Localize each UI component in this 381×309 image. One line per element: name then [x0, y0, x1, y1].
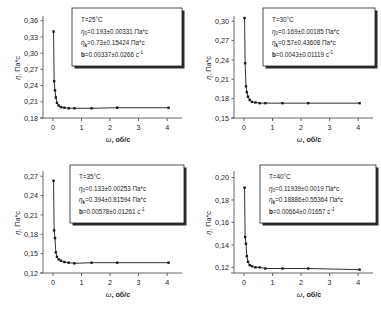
data-point [251, 265, 253, 267]
y-tick-label: 0,21 [24, 97, 38, 106]
chart-svg-top-left: 0,180,210,240,270,300,330,3601234η, Па*с… [0, 0, 190, 155]
x-tick-label: 0 [242, 123, 246, 132]
annotation-temperature: T=30°C [272, 16, 294, 23]
y-tick-label: 0,14 [215, 241, 229, 250]
x-axis-title: ω, об/с [106, 290, 130, 299]
data-point [73, 262, 75, 264]
y-tick-label: 0,33 [24, 33, 38, 42]
data-point [281, 102, 283, 104]
data-point [245, 243, 247, 245]
y-tick-label: 0,27 [24, 65, 38, 74]
data-point [90, 107, 92, 109]
y-tick-label: 0,16 [215, 218, 229, 227]
data-point [58, 258, 60, 260]
data-point [63, 107, 65, 109]
x-tick-label: 2 [108, 278, 112, 287]
chart-svg-bottom-left: 0,120,150,180,210,240,2701234η, Па*сω, о… [0, 155, 190, 309]
x-tick-label: 2 [108, 123, 112, 132]
data-point [249, 264, 251, 266]
data-point [53, 229, 55, 231]
y-tick-label: 0,21 [24, 211, 38, 220]
x-tick-label: 1 [271, 123, 275, 132]
data-point [244, 236, 246, 238]
y-tick-label: 0,12 [24, 269, 38, 278]
data-point [90, 261, 92, 263]
x-tick-label: 0 [51, 278, 55, 287]
y-tick-label: 0,30 [215, 17, 229, 26]
x-tick-label: 3 [328, 123, 332, 132]
data-point [55, 251, 57, 253]
chart-svg-bottom-right: 0,120,140,160,180,2001234η, Па*сω, об/сT… [190, 155, 381, 309]
data-point [254, 101, 256, 103]
y-axis-title: η, Па*с [204, 211, 213, 235]
data-point [56, 102, 58, 104]
data-point [247, 96, 249, 98]
data-point [358, 268, 360, 270]
data-point [53, 80, 55, 82]
data-point [52, 180, 54, 182]
y-tick-label: 0,18 [24, 114, 38, 123]
y-axis-title: η, Па*с [13, 56, 22, 80]
x-tick-label: 2 [299, 123, 303, 132]
data-point [258, 102, 260, 104]
data-point [67, 107, 69, 109]
x-tick-label: 3 [328, 278, 332, 287]
data-point [167, 261, 169, 263]
data-point [60, 106, 62, 108]
data-point [264, 267, 266, 269]
x-axis-title: ω, об/с [106, 135, 130, 144]
data-point [55, 96, 57, 98]
x-tick-label: 4 [356, 278, 360, 287]
annotation-b: b=0.00664±0.01657 с-1 [269, 207, 335, 215]
y-tick-label: 0,15 [215, 114, 229, 123]
y-tick-label: 0,24 [215, 56, 229, 65]
x-tick-label: 0 [242, 278, 246, 287]
x-tick-label: 3 [137, 278, 141, 287]
y-axis-title: η, Па*с [13, 211, 22, 235]
annotation-b: b=0.0043±0.01119 с-1 [272, 50, 334, 58]
data-point [54, 89, 56, 91]
chart-panel-bottom-right: 0,120,140,160,180,2001234η, Па*сω, об/сT… [190, 155, 381, 309]
data-point [245, 85, 247, 87]
data-point [246, 91, 248, 93]
y-tick-label: 0,24 [24, 191, 38, 200]
data-point [244, 62, 246, 64]
x-tick-label: 2 [299, 278, 303, 287]
y-tick-label: 0,18 [215, 196, 229, 205]
y-tick-label: 0,21 [215, 75, 229, 84]
y-tick-label: 0,36 [24, 16, 38, 25]
data-point [116, 107, 118, 109]
x-axis-title: ω, об/с [297, 290, 321, 299]
data-point [307, 267, 309, 269]
chart-panel-bottom-left: 0,120,150,180,210,240,2701234η, Па*сω, о… [0, 155, 190, 309]
y-axis-title: η, Па*с [204, 56, 213, 80]
data-point [67, 261, 69, 263]
chart-panel-top-left: 0,180,210,240,270,300,330,3601234η, Па*с… [0, 0, 190, 155]
x-tick-label: 3 [137, 123, 141, 132]
x-tick-label: 4 [165, 278, 169, 287]
y-tick-label: 0,20 [215, 173, 229, 182]
data-point [358, 102, 360, 104]
data-point [249, 99, 251, 101]
data-point [258, 266, 260, 268]
data-point [73, 107, 75, 109]
data-point [264, 102, 266, 104]
x-tick-label: 4 [356, 123, 360, 132]
data-point [251, 101, 253, 103]
y-tick-label: 0,30 [24, 49, 38, 58]
annotation-temperature: T=40°C [269, 173, 291, 180]
y-tick-label: 0,12 [215, 263, 229, 272]
data-point [60, 260, 62, 262]
x-tick-label: 1 [80, 278, 84, 287]
data-point [116, 261, 118, 263]
data-point [54, 237, 56, 239]
annotation-b: b=0.00337±0.0266 с-1 [81, 50, 143, 58]
rheology-figure: 0,180,210,240,270,300,330,3601234η, Па*с… [0, 0, 381, 309]
data-point [56, 256, 58, 258]
data-point [247, 261, 249, 263]
y-tick-label: 0,27 [215, 36, 229, 45]
annotation-b: b=0.00578±0.01261 с-1 [79, 207, 145, 215]
y-tick-label: 0,15 [24, 249, 38, 258]
data-point [246, 255, 248, 257]
data-point [281, 267, 283, 269]
